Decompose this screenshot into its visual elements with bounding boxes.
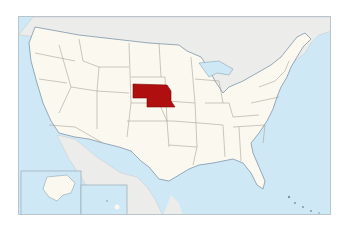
alaska-inset	[21, 171, 81, 215]
us-locator-map	[19, 17, 331, 215]
hawaii-inset	[81, 185, 127, 215]
map-frame	[18, 16, 331, 215]
